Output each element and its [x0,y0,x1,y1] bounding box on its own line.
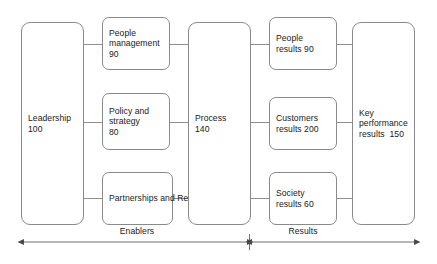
node-people-results-label: People results 90 [276,33,314,54]
node-people-management-label: People management 90 [109,28,160,60]
efqm-diagram-canvas: Leadership 100 People management 90 Poli… [0,0,437,264]
node-people-management[interactable]: People management 90 [102,17,170,70]
node-customers-results[interactable]: Customers results 200 [269,97,337,150]
node-policy-and-strategy[interactable]: Policy and strategy 80 [102,93,170,150]
node-partnerships-and-resources[interactable]: Partnerships and Resources 90 [102,172,173,225]
node-customers-results-label: Customers results 200 [276,113,319,134]
span-label-enablers: Enablers [102,226,172,236]
node-society-results-label: Society results 60 [276,188,314,209]
node-people-results[interactable]: People results 90 [269,17,337,70]
node-leadership[interactable]: Leadership 100 [21,22,84,225]
node-leadership-label: Leadership 100 [28,113,71,134]
node-process-label: Process 140 [195,113,226,134]
node-key-performance-results[interactable]: Key performance results 150 [352,22,415,225]
node-society-results[interactable]: Society results 60 [269,172,337,225]
span-label-results: Results [272,226,334,236]
node-key-performance-results-label: Key performance results 150 [359,108,408,140]
node-policy-and-strategy-label: Policy and strategy 80 [109,106,149,138]
node-process[interactable]: Process 140 [188,22,251,225]
